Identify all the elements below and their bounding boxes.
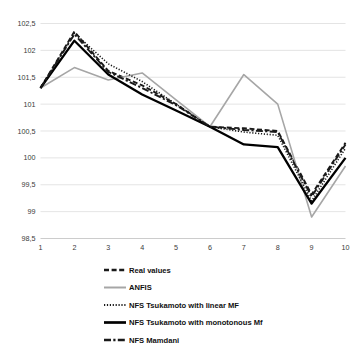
x-tick-label: 10 <box>342 243 350 252</box>
chart-canvas: 102,5102101,5101100,510099,59998,5 12345… <box>0 0 356 349</box>
y-tick-label: 101 <box>24 100 36 109</box>
x-axis-tick-labels: 12345678910 <box>39 243 350 252</box>
x-tick-label: 6 <box>208 243 212 252</box>
y-tick-label: 102,5 <box>18 19 36 28</box>
legend-label: NFS Tsukamoto with monotonous Mf <box>129 318 263 327</box>
y-tick-label: 102 <box>24 46 36 55</box>
chart-legend: Real valuesANFISNFS Tsukamoto with linea… <box>104 266 263 345</box>
y-axis-tick-labels: 102,5102101,5101100,510099,59998,5 <box>18 19 36 243</box>
gridlines <box>41 24 346 239</box>
y-tick-label: 98,5 <box>22 234 36 243</box>
x-tick-label: 5 <box>174 243 178 252</box>
y-tick-label: 100,5 <box>18 127 36 136</box>
y-tick-label: 100 <box>24 153 36 162</box>
legend-label: NFS Mamdani <box>129 336 179 345</box>
legend-label: Real values <box>129 266 171 275</box>
series-line <box>41 34 346 196</box>
x-tick-label: 7 <box>242 243 246 252</box>
x-tick-label: 9 <box>310 243 314 252</box>
legend-label: NFS Tsukamoto with linear MF <box>129 301 239 310</box>
data-series-group <box>41 32 346 217</box>
y-tick-label: 99,5 <box>22 180 36 189</box>
line-chart: 102,5102101,5101100,510099,59998,5 12345… <box>0 0 356 349</box>
x-tick-label: 2 <box>72 243 76 252</box>
x-tick-label: 8 <box>276 243 280 252</box>
series-line <box>41 68 346 217</box>
y-tick-label: 101,5 <box>18 73 36 82</box>
x-tick-label: 1 <box>39 243 43 252</box>
x-tick-label: 4 <box>140 243 144 252</box>
y-tick-label: 99 <box>28 207 36 216</box>
legend-label: ANFIS <box>129 283 152 292</box>
x-tick-label: 3 <box>106 243 110 252</box>
